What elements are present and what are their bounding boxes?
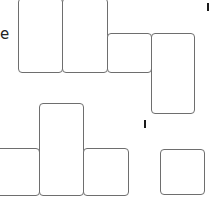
tile-g bbox=[83, 148, 129, 196]
tile-e bbox=[0, 148, 40, 196]
tile-h bbox=[160, 149, 205, 195]
tile-f bbox=[39, 103, 84, 196]
tile-b bbox=[62, 0, 108, 73]
tick-mark-top-right bbox=[207, 3, 209, 11]
tile-d bbox=[151, 33, 195, 114]
tile-a bbox=[18, 0, 63, 73]
tick-mark-middle bbox=[144, 120, 146, 128]
text-fragment-e: e bbox=[0, 27, 9, 42]
tile-c bbox=[107, 33, 152, 73]
